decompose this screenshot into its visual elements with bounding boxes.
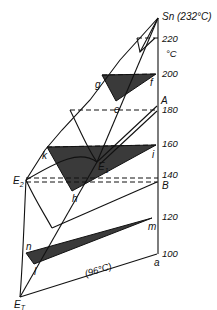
- unit-label: °C: [166, 48, 177, 59]
- point-m: m: [148, 221, 156, 232]
- tick-220: 220: [161, 33, 179, 44]
- curve-e2-lower: [26, 180, 52, 228]
- tick-200: 200: [161, 68, 179, 79]
- point-et: ET: [14, 299, 26, 310]
- tie-triangle-nlm: [26, 218, 152, 264]
- point-i: i: [152, 149, 155, 160]
- apex-label: Sn (232°C): [162, 11, 212, 22]
- eutectic-temp-label: (96°C): [83, 260, 113, 279]
- point-e: e: [114, 104, 120, 115]
- point-g: g: [95, 79, 101, 90]
- e2-et-line: [20, 180, 26, 297]
- point-k: k: [42, 150, 48, 161]
- tick-100: 100: [162, 248, 179, 259]
- point-a-lower: a: [154, 257, 160, 268]
- point-b: B: [162, 180, 169, 191]
- point-f: f: [150, 77, 154, 88]
- point-e2: E2: [13, 175, 24, 188]
- tick-140: 140: [162, 169, 179, 180]
- phase-diagram: Sn (232°C) °C 220 200 180 160 140 120 10…: [0, 0, 217, 310]
- line-sn-e1: [97, 18, 158, 162]
- tick-120: 120: [162, 211, 179, 222]
- point-a-upper: A: [160, 95, 168, 106]
- tick-160: 160: [162, 138, 179, 149]
- point-n: n: [26, 241, 32, 252]
- point-h: h: [72, 193, 78, 204]
